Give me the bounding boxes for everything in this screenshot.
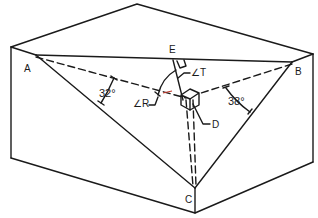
box-top-edge: [11, 4, 313, 54]
leader-T: [178, 73, 190, 78]
label-angle-32: 32°: [99, 88, 116, 98]
label-E: E: [169, 45, 176, 55]
box-diagram: [0, 0, 318, 218]
label-D: D: [212, 120, 219, 130]
arc-R: [158, 70, 176, 95]
edge-B-C: [195, 62, 292, 188]
leader-R: [149, 97, 158, 105]
edge-A-B: [36, 55, 292, 62]
box-bottom-edge: [11, 158, 313, 213]
label-A: A: [24, 64, 31, 74]
edge-B-right: [292, 54, 313, 62]
label-angle-T: ∠T: [191, 68, 206, 78]
label-C: C: [185, 195, 192, 205]
label-angle-R: ∠R: [133, 99, 149, 109]
dashed-D-C-left: [186, 100, 193, 186]
label-B: B: [295, 67, 302, 77]
dashed-D-C-right: [193, 100, 196, 186]
dashed-B-D: [198, 64, 292, 94]
label-angle-38: 38°: [228, 96, 245, 106]
edge-A-C: [36, 55, 195, 188]
edge-left-to-A: [11, 47, 36, 55]
right-angle-mark: [177, 60, 186, 68]
